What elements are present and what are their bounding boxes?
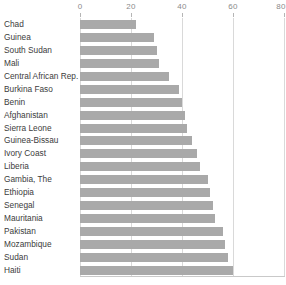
x-tick-mark-60 <box>233 13 234 17</box>
category-label: South Sudan <box>4 44 52 57</box>
category-label: Senegal <box>4 199 34 212</box>
bar-track <box>80 109 285 122</box>
bar-track <box>80 199 285 212</box>
bar-row: Afghanistan <box>0 109 286 122</box>
category-label: Mali <box>4 57 19 70</box>
category-label: Pakistan <box>4 225 36 238</box>
bar-row: Guinea-Bissau <box>0 134 286 147</box>
category-label: Guinea-Bissau <box>4 134 58 147</box>
bar <box>80 20 136 29</box>
bar-track <box>80 238 285 251</box>
bar-row: Sudan <box>0 251 286 264</box>
x-tick-label-80: 80 <box>276 2 285 11</box>
bar <box>80 46 157 55</box>
bar <box>80 201 213 210</box>
x-tick-mark-40 <box>182 13 183 17</box>
bar-track <box>80 173 285 186</box>
bar-track <box>80 44 285 57</box>
bar-row: Senegal <box>0 199 286 212</box>
x-tick-mark-0 <box>80 13 81 17</box>
x-tick-label-60: 60 <box>228 2 237 11</box>
bar <box>80 149 197 158</box>
bar-row: Sierra Leone <box>0 122 286 135</box>
x-tick-label-0: 0 <box>78 2 83 11</box>
bar-row: South Sudan <box>0 44 286 57</box>
bar <box>80 175 208 184</box>
bar <box>80 33 154 42</box>
bar <box>80 266 233 275</box>
category-label: Sudan <box>4 251 28 264</box>
category-label: Chad <box>4 18 24 31</box>
x-tick-mark-80 <box>284 13 285 17</box>
bar <box>80 59 159 68</box>
x-tick-label-20: 20 <box>126 2 135 11</box>
bar <box>80 240 225 249</box>
bar-rows: ChadGuineaSouth SudanMaliCentral African… <box>0 18 286 277</box>
bar-track <box>80 18 285 31</box>
bar-row: Pakistan <box>0 225 286 238</box>
bar <box>80 124 187 133</box>
bar-track <box>80 70 285 83</box>
bar <box>80 98 182 107</box>
bar <box>80 227 223 236</box>
category-label: Sierra Leone <box>4 122 52 135</box>
x-tick-mark-20 <box>131 13 132 17</box>
bar-track <box>80 134 285 147</box>
bar-row: Ethiopia <box>0 186 286 199</box>
bar <box>80 85 179 94</box>
bar-track <box>80 96 285 109</box>
bar <box>80 111 185 120</box>
bar-track <box>80 186 285 199</box>
bar-row: Mauritania <box>0 212 286 225</box>
category-label: Afghanistan <box>4 109 48 122</box>
category-label: Gambia, The <box>4 173 52 186</box>
bar-row: Gambia, The <box>0 173 286 186</box>
category-label: Guinea <box>4 31 31 44</box>
bar-row: Mali <box>0 57 286 70</box>
bar-row: Mozambique <box>0 238 286 251</box>
bar-track <box>80 264 285 277</box>
category-label: Haiti <box>4 264 21 277</box>
bar-track <box>80 225 285 238</box>
bar-row: Chad <box>0 18 286 31</box>
bar <box>80 162 200 171</box>
bar-track <box>80 160 285 173</box>
bar-track <box>80 122 285 135</box>
category-label: Burkina Faso <box>4 83 53 96</box>
bar <box>80 72 169 81</box>
bar-row: Ivory Coast <box>0 147 286 160</box>
bar-row: Liberia <box>0 160 286 173</box>
category-label: Mauritania <box>4 212 43 225</box>
category-label: Ivory Coast <box>4 147 46 160</box>
bar-track <box>80 31 285 44</box>
category-label: Benin <box>4 96 25 109</box>
bar-track <box>80 83 285 96</box>
bar-track <box>80 57 285 70</box>
bar-row: Haiti <box>0 264 286 277</box>
bar-row: Central African Rep. <box>0 70 286 83</box>
bar <box>80 214 215 223</box>
category-label: Central African Rep. <box>4 70 78 83</box>
bar-chart: 0 20 40 60 80 ChadGuineaSouth SudanMaliC… <box>0 0 286 285</box>
bar <box>80 136 192 145</box>
bar <box>80 188 210 197</box>
x-tick-label-40: 40 <box>177 2 186 11</box>
category-label: Ethiopia <box>4 186 34 199</box>
bar <box>80 253 228 262</box>
bar-track <box>80 212 285 225</box>
category-label: Liberia <box>4 160 29 173</box>
bar-row: Guinea <box>0 31 286 44</box>
bar-row: Benin <box>0 96 286 109</box>
category-label: Mozambique <box>4 238 52 251</box>
bar-row: Burkina Faso <box>0 83 286 96</box>
bar-track <box>80 251 285 264</box>
bar-track <box>80 147 285 160</box>
